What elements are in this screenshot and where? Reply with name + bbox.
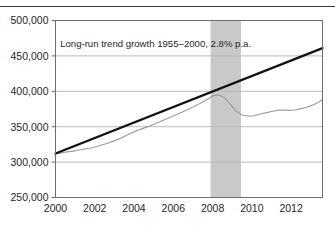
- actual-line: [56, 95, 323, 154]
- actual-series-group: [56, 95, 323, 154]
- x-tick-label: 2012: [279, 202, 303, 214]
- trend-line: [56, 48, 323, 153]
- x-tick-label: 2002: [83, 202, 107, 214]
- y-tick-label: 450,000: [11, 50, 49, 62]
- y-tick-label: 400,000: [11, 85, 49, 97]
- x-tick-label: 2008: [201, 202, 225, 214]
- trend-annotation-label: Long-run trend growth 1955–2000, 2.8% p.…: [60, 38, 251, 49]
- y-tick-label: 300,000: [11, 156, 49, 168]
- x-tick-label: 2000: [44, 202, 68, 214]
- x-tick-label: 2004: [122, 202, 146, 214]
- y-axis-ticks: [52, 21, 56, 198]
- gdp-trend-chart: 250,000300,000350,000400,000450,000500,0…: [0, 0, 335, 226]
- y-tick-label: 500,000: [11, 14, 49, 26]
- chart-figure: 250,000300,000350,000400,000450,000500,0…: [0, 0, 335, 226]
- x-axis-labels: 2000200220042006200820102012: [44, 202, 303, 214]
- chart-annotations: Long-run trend growth 1955–2000, 2.8% p.…: [60, 38, 251, 49]
- y-tick-label: 350,000: [11, 121, 49, 133]
- x-tick-label: 2010: [240, 202, 264, 214]
- y-axis-labels: 250,000300,000350,000400,000450,000500,0…: [11, 14, 49, 203]
- x-tick-label: 2006: [162, 202, 186, 214]
- trend-series-group: [56, 48, 323, 153]
